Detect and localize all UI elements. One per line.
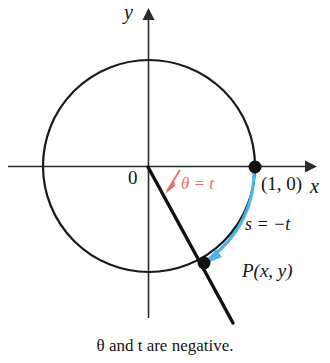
initial-point-dot [249, 161, 262, 174]
y-axis-arrowhead [143, 8, 155, 20]
terminal-point-dot [198, 257, 211, 270]
x-axis-arrowhead [305, 161, 317, 173]
angle-annotation-arrowhead [165, 180, 175, 194]
x-axis-label: x [310, 176, 319, 196]
figure-caption: θ and t are negative. [0, 337, 330, 354]
origin-label: 0 [128, 168, 138, 187]
arc-s [210, 168, 254, 258]
y-axis-label: y [124, 2, 133, 22]
angle-label: θ = t [181, 175, 214, 192]
unit-circle-figure: y x 0 θ = t (1, 0) s = −t P(x, y) θ and … [0, 0, 330, 363]
initial-point-label: (1, 0) [261, 174, 302, 193]
terminal-point-label: P(x, y) [242, 261, 293, 280]
arc-length-label: s = −t [245, 215, 290, 233]
angle-annotation-arrow [167, 170, 180, 191]
